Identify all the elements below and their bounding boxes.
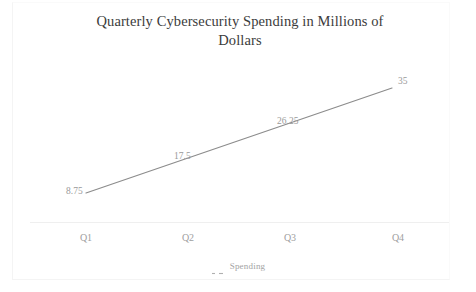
legend-marker-spending-icon [211,263,226,270]
chart-plot-svg [0,0,476,292]
series-line-spending [86,88,392,193]
data-label-q2: 17.5 [174,151,191,161]
data-label-q3: 26.25 [277,116,298,126]
x-tick-label-q3: Q3 [270,232,310,243]
plot-area: 8.75 17.5 26.25 35 Q1 Q2 Q3 Q4 [0,0,476,292]
chart-legend: Spending [0,261,476,271]
data-label-q4: 35 [398,76,408,86]
x-tick-label-q4: Q4 [378,232,418,243]
x-tick-label-q1: Q1 [66,232,106,243]
x-tick-label-q2: Q2 [168,232,208,243]
chart-container: Quarterly Cybersecurity Spending in Mill… [0,0,476,292]
legend-label-spending: Spending [230,261,266,271]
data-label-q1: 8.75 [66,186,83,196]
